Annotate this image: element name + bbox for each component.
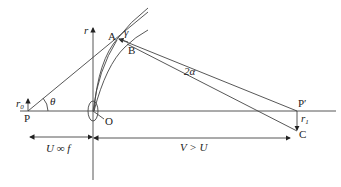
right-dimension-label: V > U (180, 141, 208, 153)
point-B-label: B (128, 44, 135, 56)
point-Pprime-label: P′ (298, 97, 307, 109)
ray-B-C (127, 44, 297, 131)
r-axis-label: r (84, 24, 89, 36)
gamma-label: γ (124, 26, 129, 38)
r0-label: r0 (16, 97, 24, 111)
point-O-label: O (105, 115, 113, 127)
left-dimension-label: U ∞ f (46, 142, 72, 154)
O-pointer (93, 111, 104, 119)
theta-arc (43, 98, 48, 111)
optics-diagram: r r0 P θ O A γ B 2α P′ r1 C U ∞ f V > U (0, 0, 341, 187)
point-A-label: A (108, 30, 116, 42)
ray-A-Pprime (119, 39, 297, 111)
point-C-label: C (299, 128, 306, 140)
r1-label: r1 (301, 112, 309, 126)
outer-curve (94, 8, 148, 111)
point-P-label: P (24, 112, 30, 124)
two-alpha-label: 2α (184, 65, 196, 77)
theta-label: θ (50, 95, 56, 107)
